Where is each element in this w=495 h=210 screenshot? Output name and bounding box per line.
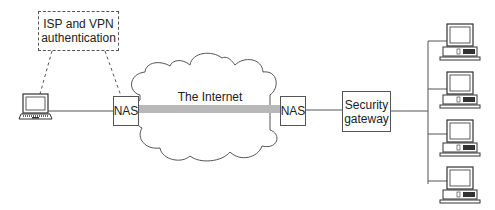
- gateway-line2: gateway: [344, 112, 389, 126]
- nas-left: NAS: [113, 96, 139, 126]
- vpn-tunnel: [138, 105, 281, 113]
- auth-link-laptop: [40, 51, 52, 94]
- laptop-icon: [19, 94, 52, 119]
- auth-box-line1: ISP and VPN: [43, 17, 114, 31]
- auth-link-nas: [105, 51, 121, 96]
- desktop-computer-icon: [440, 24, 480, 60]
- auth-box-line2: authentication: [41, 31, 116, 45]
- desktop-computer-icon: [440, 120, 480, 156]
- nas-right: NAS: [280, 96, 306, 126]
- auth-box: ISP and VPN authentication: [38, 11, 119, 51]
- desktop-computer-icon: [440, 167, 480, 203]
- gateway-line1: Security: [345, 98, 388, 112]
- security-gateway: Security gateway: [342, 91, 391, 132]
- nas-left-label: NAS: [114, 104, 139, 118]
- nas-right-label: NAS: [281, 104, 306, 118]
- desktop-computer-icon: [440, 72, 480, 108]
- internet-label: The Internet: [170, 90, 250, 104]
